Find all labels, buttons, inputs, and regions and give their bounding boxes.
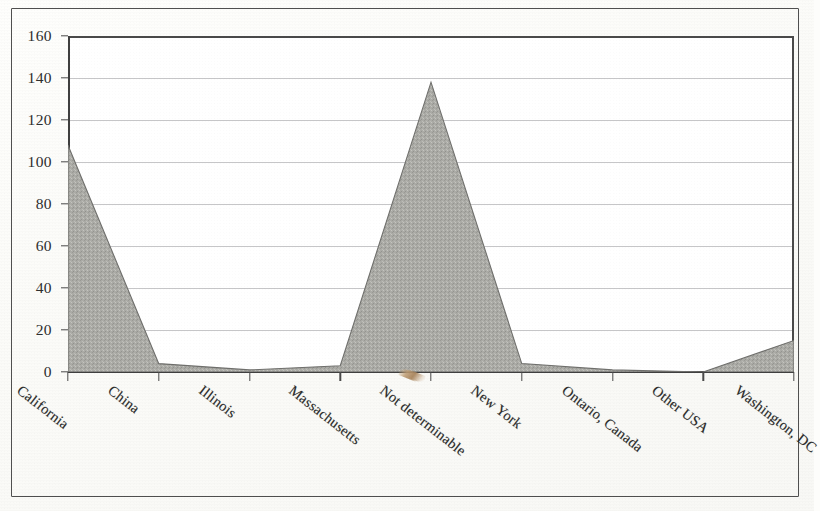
x-tick-mark xyxy=(158,372,159,381)
y-tick-mark xyxy=(61,161,68,162)
y-tick-mark xyxy=(61,119,68,120)
y-axis-tick-labels: 160 140 120 100 80 60 40 20 0 xyxy=(0,36,64,372)
x-tick-label: Massachusetts xyxy=(286,382,365,449)
y-tick-label: 40 xyxy=(36,279,52,297)
y-tick-label: 160 xyxy=(28,27,52,45)
y-tick-mark xyxy=(61,287,68,288)
y-tick-label: 140 xyxy=(28,69,52,87)
area-series xyxy=(68,36,794,372)
y-tick-label: 100 xyxy=(28,153,52,171)
x-tick-label: New York xyxy=(467,382,525,433)
x-tick-mark xyxy=(67,372,68,381)
y-tick-mark xyxy=(61,35,68,36)
x-tick-mark xyxy=(249,372,250,381)
x-tick-label: Ontario, Canada xyxy=(558,382,646,456)
y-tick-mark xyxy=(61,245,68,246)
x-tick-label: Washington, DC xyxy=(732,382,820,456)
x-tick-mark xyxy=(703,372,704,381)
y-tick-label: 80 xyxy=(36,195,52,213)
x-tick-label: Not determinable xyxy=(377,382,470,460)
plot-area xyxy=(68,36,794,372)
y-tick-label: 0 xyxy=(44,363,52,381)
x-axis-tick-labels: CaliforniaChinaIllinoisMassachusettsNot … xyxy=(68,382,794,502)
y-tick-mark xyxy=(61,329,68,330)
x-tick-mark xyxy=(793,372,794,381)
x-tick-label: Illinois xyxy=(195,382,239,422)
x-tick-mark xyxy=(521,372,522,381)
y-tick-label: 60 xyxy=(36,237,52,255)
y-tick-mark xyxy=(61,77,68,78)
x-tick-mark xyxy=(612,372,613,381)
x-tick-label: Other USA xyxy=(649,382,713,437)
y-tick-label: 20 xyxy=(36,321,52,339)
x-tick-mark xyxy=(430,372,431,381)
y-tick-label: 120 xyxy=(28,111,52,129)
x-tick-label: China xyxy=(104,382,143,417)
x-axis-ticks xyxy=(68,372,794,382)
y-tick-mark xyxy=(61,203,68,204)
x-tick-mark xyxy=(340,372,341,381)
